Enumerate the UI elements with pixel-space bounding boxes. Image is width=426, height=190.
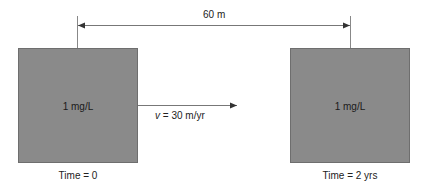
right-time-label: Time = 2 yrs xyxy=(290,170,410,181)
left-contaminant-block: 1 mg/L xyxy=(18,48,138,163)
velocity-label: v = 30 m/yr xyxy=(155,110,205,121)
distance-label: 60 m xyxy=(203,9,225,20)
left-concentration-label: 1 mg/L xyxy=(19,101,137,112)
right-contaminant-block: 1 mg/L xyxy=(290,48,410,163)
right-concentration-label: 1 mg/L xyxy=(291,101,409,112)
velocity-value: = 30 m/yr xyxy=(160,110,205,121)
left-time-label: Time = 0 xyxy=(18,170,138,181)
